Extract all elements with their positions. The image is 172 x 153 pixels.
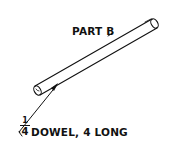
arrowhead-icon <box>51 83 58 91</box>
fraction-numerator: 1 <box>20 117 30 126</box>
fraction-denominator: 4 <box>20 126 30 137</box>
fraction-label: 1 4 <box>20 117 30 137</box>
dowel-callout-text: DOWEL, 4 LONG <box>31 126 128 138</box>
part-label: PART B <box>72 25 115 37</box>
dowel-bottom-edge <box>40 28 157 95</box>
